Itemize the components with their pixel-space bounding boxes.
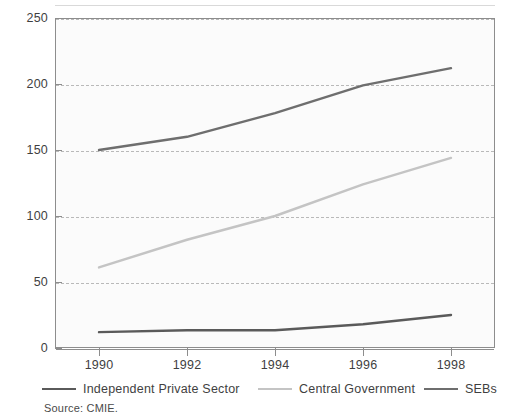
y-axis-tick-label-200: 200 [14, 77, 48, 91]
legend-swatch-icon [424, 388, 458, 390]
series-lines-group [55, 18, 495, 348]
legend-label: Central Government [299, 382, 415, 396]
source-note: Source: CMIE. [44, 402, 118, 414]
y-axis-tick-label-100: 100 [14, 209, 48, 223]
legend-item-central-government[interactable]: Central Government [258, 382, 415, 396]
x-axis: 19901992199419961998 [0, 358, 509, 376]
title-rule-divider [55, 5, 495, 6]
x-axis-tick-label-1990: 1990 [69, 358, 129, 372]
legend-label: Independent Private Sector [83, 382, 240, 396]
line-chart-figure: 250200150100500 19901992199419961998 Ind… [0, 0, 509, 417]
y-axis-tick-150 [55, 150, 62, 151]
series-line-central-government [99, 158, 451, 268]
y-axis-tick-200 [55, 84, 62, 85]
legend-swatch-icon [42, 388, 76, 390]
y-axis-tick-100 [55, 216, 62, 217]
y-axis-tick-label-0: 0 [14, 341, 48, 355]
x-axis-tick-1990 [99, 348, 100, 356]
y-axis-tick-250 [55, 18, 62, 19]
y-axis-tick-label-250: 250 [14, 11, 48, 25]
y-axis-tick-0 [55, 348, 62, 349]
y-axis-tick-label-50: 50 [14, 275, 48, 289]
x-axis-tick-1998 [451, 348, 452, 356]
x-axis-tick-1996 [363, 348, 364, 356]
legend-label: SEBs [465, 382, 497, 396]
y-axis-tick-50 [55, 282, 62, 283]
y-axis-tick-label-150: 150 [14, 143, 48, 157]
legend-swatch-icon [258, 388, 292, 390]
x-axis-tick-label-1996: 1996 [333, 358, 393, 372]
legend-item-sebs[interactable]: SEBs [424, 382, 497, 396]
x-axis-tick-label-1992: 1992 [157, 358, 217, 372]
x-axis-tick-1994 [275, 348, 276, 356]
x-axis-tick-label-1994: 1994 [245, 358, 305, 372]
series-line-sebs [99, 68, 451, 150]
series-line-independent-private-sector [99, 315, 451, 332]
y-axis: 250200150100500 [8, 18, 48, 348]
x-axis-tick-label-1998: 1998 [421, 358, 481, 372]
chart-legend: Independent Private SectorCentral Govern… [0, 382, 509, 402]
x-axis-tick-1992 [187, 348, 188, 356]
legend-item-independent-private-sector[interactable]: Independent Private Sector [42, 382, 240, 396]
